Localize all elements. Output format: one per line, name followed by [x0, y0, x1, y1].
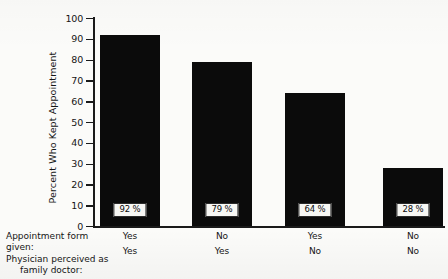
category-value-family-doctor: Yes	[191, 246, 253, 257]
bar: 28 %	[383, 168, 443, 226]
category-column: NoYes	[191, 231, 253, 258]
category-value-appointment-form: No	[382, 231, 444, 242]
bar: 92 %	[100, 35, 160, 226]
bar-value-label: 64 %	[298, 203, 331, 217]
y-axis-line	[93, 17, 95, 227]
category-value-family-doctor: No	[284, 246, 346, 257]
category-value-appointment-form: Yes	[99, 231, 161, 242]
y-axis-tick: 60	[86, 101, 93, 102]
y-axis-tick: 100	[86, 18, 93, 19]
stub-line-appointment-form: Appointment form given:	[6, 231, 88, 252]
chart-screenshot: Percent Who Kept Appointment 10090807060…	[0, 0, 448, 279]
category-value-family-doctor: No	[382, 246, 444, 257]
category-value-family-doctor: Yes	[99, 246, 161, 257]
y-axis-tick: 50	[86, 122, 93, 123]
y-axis-tick: 40	[86, 143, 93, 144]
y-axis-tick-label: 60	[71, 97, 83, 107]
bar-chart-plot-area: Percent Who Kept Appointment 10090807060…	[0, 0, 448, 279]
y-axis-tick: 0	[86, 226, 93, 227]
category-value-appointment-form: Yes	[284, 231, 346, 242]
x-axis-baseline	[93, 226, 445, 228]
y-axis-tick: 80	[86, 60, 93, 61]
y-axis-tick-label: 0	[77, 222, 83, 232]
y-axis-tick-label: 50	[71, 118, 83, 128]
y-axis-tick-label: 70	[71, 76, 83, 86]
bar-value-label: 28 %	[396, 203, 429, 217]
bar: 64 %	[285, 93, 345, 226]
category-column: NoNo	[382, 231, 444, 258]
y-axis-tick: 90	[86, 39, 93, 40]
bar-value-label: 92 %	[113, 203, 146, 217]
y-axis-title: Percent Who Kept Appointment	[47, 38, 58, 218]
category-value-appointment-form: No	[191, 231, 253, 242]
y-axis-tick-label: 100	[65, 14, 83, 24]
y-axis-tick: 30	[86, 164, 93, 165]
y-axis-tick-label: 40	[71, 139, 83, 149]
category-column: YesNo	[284, 231, 346, 258]
category-column: YesYes	[99, 231, 161, 258]
y-axis-tick: 70	[86, 80, 93, 81]
y-axis-tick-label: 20	[71, 180, 83, 190]
y-axis-tick-label: 10	[71, 201, 83, 211]
y-axis-tick-label: 30	[71, 160, 83, 170]
bar: 79 %	[192, 62, 252, 226]
y-axis-tick: 10	[86, 205, 93, 206]
stub-line-family-doctor: family doctor:	[6, 265, 118, 276]
y-axis-tick: 20	[86, 184, 93, 185]
category-legend: Appointment form given: Physician percei…	[0, 231, 448, 277]
bar-value-label: 79 %	[205, 203, 238, 217]
y-axis-tick-label: 80	[71, 56, 83, 66]
y-axis-tick-label: 90	[71, 35, 83, 45]
